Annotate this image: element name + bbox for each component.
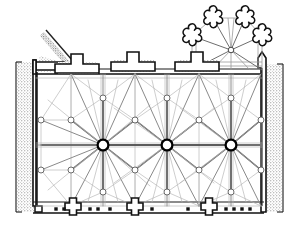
right-double-wall — [258, 52, 283, 212]
chapel-boss — [228, 47, 234, 53]
bay-1-boss — [98, 140, 109, 151]
floor-plan-canvas — [0, 0, 297, 234]
bay-2-boss — [162, 140, 173, 151]
vault-plan-drawing — [0, 0, 297, 234]
bay-3-boss — [226, 140, 237, 151]
capital-left-top — [33, 60, 36, 74]
